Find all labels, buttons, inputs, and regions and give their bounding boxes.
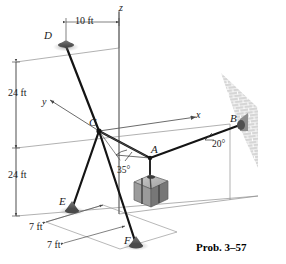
point-label-C: C: [89, 117, 96, 128]
point-label-E: E: [59, 196, 66, 207]
angle-label-20: 20°: [212, 140, 225, 150]
axis-lines: [50, 10, 196, 214]
dimension-24ft-lower: 24 ft: [8, 170, 27, 180]
dimension-7ft-lower: 7 ft: [47, 240, 61, 250]
dimension-10ft: 10 ft: [75, 16, 94, 26]
figure-caption: Prob. 3–57: [196, 242, 247, 253]
axis-label-x: x: [196, 110, 200, 120]
dimension-7ft-upper: 7 ft: [29, 222, 43, 232]
dimension-24ft-upper: 24 ft: [8, 88, 27, 98]
point-label-A: A: [151, 144, 158, 155]
axis-label-y: y: [42, 97, 46, 107]
axis-label-z: z: [119, 3, 123, 13]
crate: [134, 175, 168, 207]
x-axis: [99, 117, 196, 131]
anchor-D: [53, 40, 79, 52]
point-label-B: B: [230, 113, 237, 124]
point-label-D: D: [44, 30, 52, 41]
angle-label-35: 35°: [117, 166, 130, 176]
cable-CE: [72, 131, 99, 209]
point-label-F: F: [124, 235, 131, 246]
cable-AB: [150, 125, 240, 158]
